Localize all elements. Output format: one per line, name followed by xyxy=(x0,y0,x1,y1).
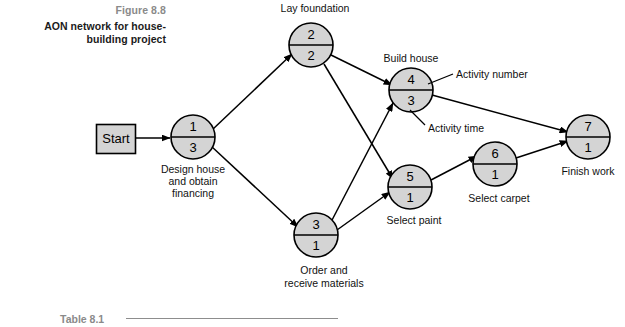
activity-node-7: 7 1 Finish work xyxy=(561,115,615,177)
edge-3-to-5 xyxy=(337,192,390,230)
node-2-activity-number: 2 xyxy=(307,27,314,42)
node-1-activity-time: 3 xyxy=(189,140,196,155)
node-4-label: Build house xyxy=(384,52,439,64)
node-4-activity-number: 4 xyxy=(407,72,414,87)
edge-6-to-7 xyxy=(516,141,568,158)
node-7-label: Finish work xyxy=(561,165,615,177)
edge-1-to-2 xyxy=(212,54,292,130)
activity-node-5: 5 1 Select paint xyxy=(387,165,442,226)
table-caption: Table 8.1 xyxy=(60,311,340,327)
activity-node-3: 3 1 Order and receive materials xyxy=(284,213,363,289)
node-6-activity-time: 1 xyxy=(491,167,498,182)
node-3-activity-time: 1 xyxy=(312,238,319,253)
activity-node-6: 6 1 Select carpet xyxy=(468,142,529,204)
start-node: Start xyxy=(97,125,136,154)
node-1-label-line-2: and obtain xyxy=(168,175,217,187)
node-6-label: Select carpet xyxy=(468,192,529,204)
node-5-label: Select paint xyxy=(387,214,442,226)
node-4-activity-time: 3 xyxy=(407,93,414,108)
node-5-activity-time: 1 xyxy=(406,190,413,205)
node-3-label-line-2: receive materials xyxy=(284,277,363,289)
node-3-activity-number: 3 xyxy=(312,217,319,232)
start-label: Start xyxy=(102,131,130,146)
node-1-label-line-3: financing xyxy=(172,187,214,199)
node-7-activity-number: 7 xyxy=(584,119,591,134)
table-number: Table 8.1 xyxy=(60,313,104,325)
node-2-label: Lay foundation xyxy=(281,2,350,14)
figure-page: Figure 8.8 AON network for house-buildin… xyxy=(0,0,625,327)
activity-node-2: 2 2 Lay foundation xyxy=(281,2,350,67)
activity-time-label: Activity time xyxy=(428,122,484,134)
node-3-label-line-1: Order and xyxy=(300,264,347,276)
node-1-label-line-1: Design house xyxy=(161,163,225,175)
activity-number-label: Activity number xyxy=(456,68,528,80)
activity-node-4: 4 3 Build house xyxy=(384,52,439,112)
activity-number-leader-line xyxy=(428,74,453,84)
node-2-activity-time: 2 xyxy=(307,48,314,63)
aon-network-diagram: Start 1 3 Design house and obtain financ… xyxy=(0,0,625,327)
table-caption-rule xyxy=(126,318,338,319)
node-7-activity-time: 1 xyxy=(584,140,591,155)
activity-time-leader-line xyxy=(410,110,425,125)
edge-1-to-3 xyxy=(211,146,298,227)
edge-5-to-6 xyxy=(431,156,477,180)
node-6-activity-number: 6 xyxy=(491,146,498,161)
node-5-activity-number: 5 xyxy=(406,169,413,184)
node-1-activity-number: 1 xyxy=(189,119,196,134)
